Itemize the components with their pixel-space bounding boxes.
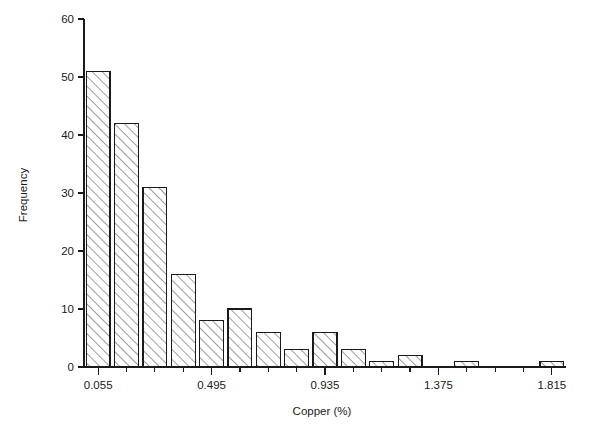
y-tick-label: 40: [61, 129, 74, 141]
bar-fill: [200, 321, 224, 367]
bar-fill: [455, 361, 479, 367]
y-axis-title: Frequency: [17, 168, 29, 223]
histogram-bar: [115, 123, 139, 367]
bar-fill: [285, 350, 309, 367]
x-tick-label: 0.495: [197, 379, 226, 391]
histogram-bar: [285, 350, 309, 367]
histogram-bar: [256, 332, 280, 367]
bar-fill: [370, 361, 394, 367]
y-tick-label: 50: [61, 71, 74, 83]
x-axis-title: Copper (%): [293, 405, 352, 417]
x-tick-label: 1.375: [424, 379, 453, 391]
histogram-bar: [398, 355, 422, 367]
x-tick-label: 1.815: [537, 379, 566, 391]
histogram-bar: [370, 361, 394, 367]
bar-fill: [256, 332, 280, 367]
histogram-bar: [313, 332, 337, 367]
bar-fill: [540, 361, 564, 367]
histogram-chart: 0102030405060 0.0550.4950.9351.3751.815 …: [0, 0, 591, 435]
histogram-svg: 0102030405060 0.0550.4950.9351.3751.815 …: [0, 0, 591, 435]
y-tick-label: 20: [61, 245, 74, 257]
bar-fill: [341, 350, 365, 367]
y-tick-label: 10: [61, 303, 74, 315]
histogram-bar: [341, 350, 365, 367]
x-tick-label: 0.055: [84, 379, 113, 391]
bar-fill: [115, 123, 139, 367]
x-tick-label: 0.935: [311, 379, 340, 391]
histogram-bar: [171, 274, 195, 367]
bar-fill: [143, 187, 167, 367]
bar-fill: [86, 71, 110, 367]
y-tick-label: 30: [61, 187, 74, 199]
bar-fill: [313, 332, 337, 367]
y-tick-label: 60: [61, 13, 74, 25]
histogram-bar: [143, 187, 167, 367]
histogram-bar: [86, 71, 110, 367]
histogram-bar: [455, 361, 479, 367]
bar-fill: [171, 274, 195, 367]
histogram-bar: [200, 321, 224, 367]
histogram-bar: [540, 361, 564, 367]
bar-fill: [398, 355, 422, 367]
bar-fill: [228, 309, 252, 367]
histogram-bar: [228, 309, 252, 367]
y-tick-label: 0: [68, 361, 74, 373]
